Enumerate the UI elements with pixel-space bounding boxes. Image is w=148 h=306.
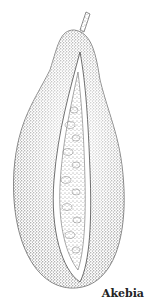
- caption-label: Akebia: [102, 287, 144, 300]
- akebia-fruit-illustration: [0, 0, 148, 306]
- stem: [80, 12, 90, 32]
